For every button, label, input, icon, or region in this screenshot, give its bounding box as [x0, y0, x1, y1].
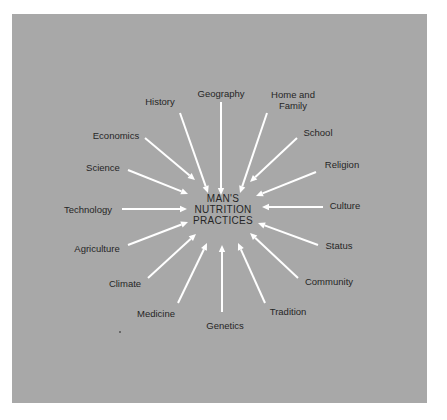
- factor-label-economics: Economics: [93, 130, 139, 141]
- factor-label-genetics: Genetics: [206, 320, 244, 331]
- factor-label-tradition: Tradition: [270, 306, 307, 317]
- factor-label-culture: Culture: [330, 200, 361, 211]
- arrow-religion: [256, 172, 316, 196]
- arrow-science: [128, 170, 188, 194]
- factor-label-school: School: [303, 127, 332, 138]
- arrow-medicine: [178, 243, 207, 303]
- factor-label-agriculture: Agriculture: [74, 243, 119, 254]
- arrow-economics: [145, 138, 195, 180]
- arrow-climate: [148, 234, 196, 278]
- arrow-status: [258, 222, 318, 245]
- arrow-geography: [218, 102, 224, 195]
- center-title-line-3: PRACTICES: [193, 215, 253, 226]
- arrow-home-and-family: [239, 113, 267, 193]
- factor-label-technology: Technology: [64, 204, 112, 215]
- arrowhead-icon: [262, 204, 269, 210]
- arrow-genetics: [219, 245, 225, 312]
- factor-label-geography: Geography: [197, 88, 244, 99]
- arrow-agriculture: [128, 222, 188, 245]
- factor-label-medicine: Medicine: [137, 308, 175, 319]
- center-title-line-1: MAN'S: [193, 193, 253, 204]
- arrow-technology: [122, 206, 187, 212]
- center-title-line-2: NUTRITION: [193, 204, 253, 215]
- center-title: MAN'S NUTRITION PRACTICES: [193, 193, 253, 226]
- factor-label-history: History: [145, 96, 175, 107]
- arrowhead-icon: [180, 206, 187, 212]
- factor-label-status: Status: [326, 240, 353, 251]
- arrow-culture: [262, 204, 323, 210]
- arrow-tradition: [238, 243, 265, 303]
- arrowhead-icon: [180, 222, 188, 228]
- arrow-community: [250, 233, 298, 278]
- speck-mark: [119, 331, 121, 333]
- factor-label-community: Community: [305, 276, 353, 287]
- factor-label-religion: Religion: [325, 159, 359, 170]
- arrowhead-icon: [258, 222, 266, 228]
- arrow-history: [180, 113, 209, 193]
- factor-label-science: Science: [86, 162, 120, 173]
- factor-label-climate: Climate: [109, 278, 141, 289]
- factor-label-home-and-family: Home andFamily: [271, 89, 315, 111]
- arrowhead-icon: [219, 245, 225, 252]
